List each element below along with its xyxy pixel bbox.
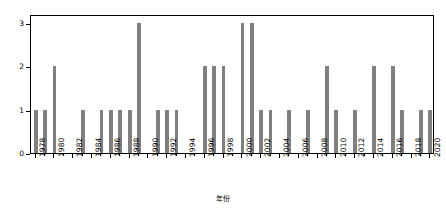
y-tick-mark <box>26 154 30 155</box>
x-tick-label: 1978 <box>38 138 47 158</box>
x-tick-mark-major <box>373 154 374 158</box>
bar <box>428 110 432 153</box>
x-tick-label: 1990 <box>151 138 160 158</box>
x-tick-mark-major <box>335 154 336 158</box>
y-tick-label: 3 <box>2 20 24 28</box>
plot-area <box>30 15 434 154</box>
x-tick-label: 2000 <box>245 138 254 158</box>
x-tick-mark-major <box>354 154 355 158</box>
bar <box>128 110 132 153</box>
bar <box>222 66 226 153</box>
x-tick-label: 2008 <box>320 138 329 158</box>
bar-series <box>31 16 433 153</box>
x-tick-label: 1988 <box>132 138 141 158</box>
x-axis-title: 年份 <box>0 193 446 203</box>
x-tick-label: 1994 <box>188 138 197 158</box>
bar <box>53 66 57 153</box>
x-tick-label: 1982 <box>75 138 84 158</box>
x-tick-mark-major <box>411 154 412 158</box>
x-tick-mark-major <box>35 154 36 158</box>
bar <box>241 23 245 153</box>
x-tick-mark-major <box>185 154 186 158</box>
x-tick-label: 2012 <box>357 138 366 158</box>
y-tick-label: 1 <box>2 107 24 115</box>
bar <box>137 23 141 153</box>
x-tick-label: 2016 <box>395 138 404 158</box>
x-tick-label: 1984 <box>94 138 103 158</box>
x-tick-mark-major <box>147 154 148 158</box>
x-tick-label: 2014 <box>376 138 385 158</box>
y-tick-label: 0 <box>2 150 24 158</box>
y-tick-label: 2 <box>2 63 24 71</box>
x-tick-label: 2020 <box>433 138 442 158</box>
x-tick-mark-major <box>72 154 73 158</box>
x-tick-label: 1996 <box>207 138 216 158</box>
x-tick-mark-major <box>317 154 318 158</box>
x-tick-label: 2006 <box>301 138 310 158</box>
bar <box>250 23 254 153</box>
x-tick-label: 2010 <box>339 138 348 158</box>
x-tick-label: 1998 <box>226 138 235 158</box>
x-tick-mark-major <box>260 154 261 158</box>
x-tick-label: 2018 <box>414 138 423 158</box>
x-tick-mark-major <box>204 154 205 158</box>
x-tick-mark-major <box>129 154 130 158</box>
x-tick-label: 1992 <box>169 138 178 158</box>
x-tick-mark-major <box>298 154 299 158</box>
x-tick-mark-major <box>241 154 242 158</box>
x-tick-mark-major <box>279 154 280 158</box>
x-tick-label: 2002 <box>263 138 272 158</box>
bar-chart-figure: 过程次数 0123 197819801982198419861988199019… <box>0 0 446 208</box>
bar <box>34 110 38 153</box>
x-tick-mark-major <box>110 154 111 158</box>
x-tick-mark-major <box>392 154 393 158</box>
x-tick-label: 2004 <box>282 138 291 158</box>
bar <box>334 110 338 153</box>
x-tick-label: 1986 <box>113 138 122 158</box>
x-tick-mark-major <box>166 154 167 158</box>
x-tick-mark-major <box>53 154 54 158</box>
x-tick-mark-major <box>91 154 92 158</box>
x-tick-mark-major <box>429 154 430 158</box>
x-tick-mark-major <box>223 154 224 158</box>
x-tick-label: 1980 <box>57 138 66 158</box>
